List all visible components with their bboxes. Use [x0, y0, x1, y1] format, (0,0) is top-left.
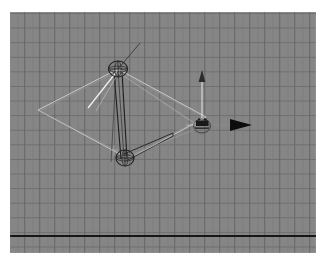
- joint-upper[interactable]: [109, 61, 128, 77]
- 3d-viewport[interactable]: [10, 12, 316, 253]
- joint-orient-axis: [118, 43, 140, 69]
- x-axis-handle[interactable]: [206, 119, 252, 131]
- construction-lines: [118, 72, 198, 158]
- screenshot-root: [0, 0, 329, 267]
- joint-lower[interactable]: [116, 150, 134, 166]
- y-axis-handle[interactable]: [199, 70, 206, 120]
- scene-geometry[interactable]: [10, 12, 316, 253]
